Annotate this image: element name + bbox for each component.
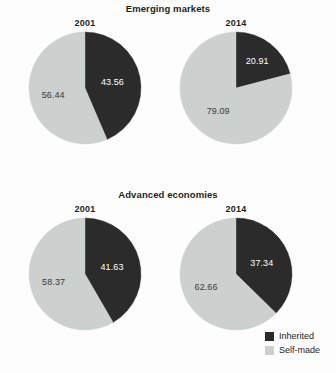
pie-cell-advanced-2001: 2001 41.6358.37 <box>10 204 160 364</box>
year-label-advanced-2001: 2001 <box>10 204 160 214</box>
pie-cell-emerging-2014: 2014 20.9179.09 <box>161 18 311 178</box>
legend-label-inherited: Inherited <box>279 332 314 341</box>
pie-cell-emerging-2001: 2001 43.5656.44 <box>10 18 160 178</box>
pie-chart-advanced-2014: 37.3462.66 <box>180 218 292 330</box>
pie-chart-advanced-2001: 41.6358.37 <box>29 218 141 330</box>
section-emerging-markets: Emerging markets 2001 43.5656.44 2014 20… <box>0 0 336 186</box>
legend-swatch-inherited-icon <box>265 332 274 341</box>
legend-item-self-made: Self-made <box>265 344 336 356</box>
section-title-emerging-markets: Emerging markets <box>0 3 336 14</box>
pie-chart-emerging-2014: 20.9179.09 <box>180 32 292 144</box>
legend-label-self-made: Self-made <box>279 346 320 355</box>
year-label-emerging-2014: 2014 <box>161 18 311 28</box>
section-title-advanced-economies: Advanced economies <box>0 189 336 200</box>
pie-chart-figure: Emerging markets 2001 43.5656.44 2014 20… <box>0 0 336 373</box>
legend-item-inherited: Inherited <box>265 330 336 342</box>
pie-chart-emerging-2001: 43.5656.44 <box>29 32 141 144</box>
year-label-advanced-2014: 2014 <box>161 204 311 214</box>
year-label-emerging-2001: 2001 <box>10 18 160 28</box>
chart-legend: Inherited Self-made <box>265 330 336 358</box>
legend-swatch-self-made-icon <box>265 346 274 355</box>
